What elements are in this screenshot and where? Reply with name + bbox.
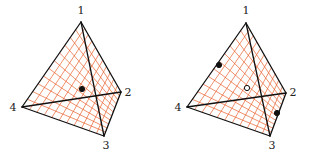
vertex-label-3: 3	[103, 139, 110, 152]
edge-3-4	[22, 107, 104, 136]
edge-1-4	[22, 22, 81, 107]
vertex-label-4: 4	[175, 101, 182, 114]
mesh-ruling	[49, 68, 112, 116]
vertex-labels: 1234	[175, 4, 297, 152]
filled-point-marker	[79, 86, 84, 91]
edge-2-3	[104, 92, 121, 136]
mesh-ruling	[214, 69, 277, 117]
mesh-ruling	[232, 61, 268, 123]
tetrahedra-diagram: 1234 1234	[0, 0, 309, 157]
edge-3-4	[187, 107, 270, 136]
vertex-label-1: 1	[78, 4, 85, 17]
open-point-marker	[244, 85, 249, 90]
edge-1-2	[81, 22, 121, 92]
ruled-surface-mesh	[192, 29, 284, 133]
vertex-label-4: 4	[10, 101, 17, 114]
marked-points	[79, 86, 84, 91]
vertex-label-2: 2	[125, 86, 132, 99]
mesh-ruling	[59, 54, 99, 120]
mesh-ruling	[240, 68, 272, 126]
edge-1-2	[246, 23, 286, 93]
filled-point-marker	[216, 62, 221, 67]
vertex-label-2: 2	[290, 86, 297, 99]
left-tetrahedron-panel: 1234	[10, 4, 132, 152]
mesh-ruling	[82, 73, 110, 128]
filled-point-marker	[274, 110, 279, 115]
edge-1-3	[81, 22, 104, 136]
right-tetrahedron-panel: 1234	[175, 4, 297, 152]
vertex-label-1: 1	[243, 4, 250, 17]
ruled-surface-mesh	[27, 28, 119, 133]
vertex-label-3: 3	[269, 139, 276, 152]
